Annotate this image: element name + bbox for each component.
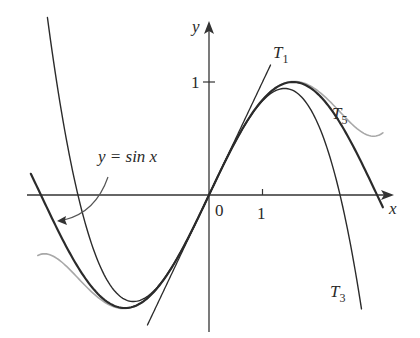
x-axis-label: x <box>389 200 397 217</box>
sin-label-text: y = sin x <box>98 147 157 166</box>
arrowhead-icon <box>57 216 67 225</box>
taylor-polynomial-figure: y x 0 1 1 y = sin x T1 T5 T3 <box>0 0 420 338</box>
y-axis-label: y <box>192 18 200 35</box>
plot-area <box>0 0 420 338</box>
t1-label-sub: 1 <box>282 52 288 66</box>
t5-label-sub: 5 <box>341 113 347 127</box>
t1-label: T1 <box>273 44 288 61</box>
origin-label: 0 <box>215 202 224 219</box>
t3-label: T3 <box>330 283 345 300</box>
sin-curve-label: y = sin x <box>98 148 157 165</box>
x-tick-label-1: 1 <box>257 205 266 222</box>
sin-label-arrow <box>64 177 108 220</box>
t3-label-sub: 3 <box>339 291 345 305</box>
t5-label: T5 <box>332 105 347 122</box>
t3-curve <box>47 18 361 309</box>
y-tick-label-1: 1 <box>191 74 200 91</box>
